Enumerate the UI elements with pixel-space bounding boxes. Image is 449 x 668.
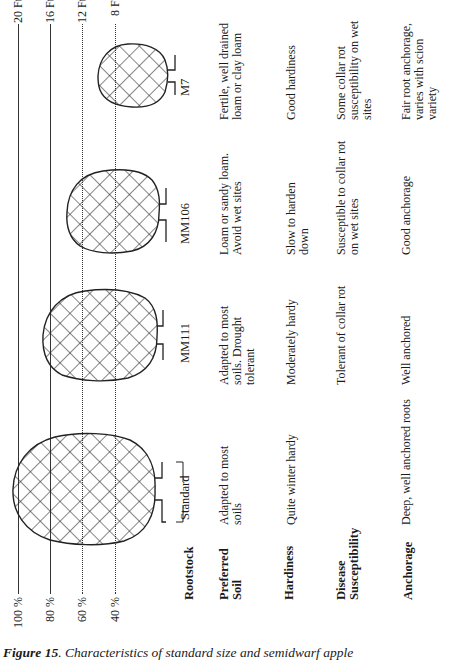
row-label-disease-susceptibility: Disease Susceptibility [335,528,361,600]
standard-preferred-soil: Adapted to most soils [218,433,244,525]
rootstock-name-mm106: MM106 [179,203,192,244]
mm106-disease-susceptibility: Susceptible to collar rot on wet sites [335,130,361,255]
tree-mm111-icon [43,290,163,381]
mm111-anchorage: Well anchored [400,265,413,385]
tree-standard-icon [13,433,183,544]
mm111-hardiness: Moderately hardy [285,255,298,385]
rootstock-name-m7: M7 [179,79,192,96]
mm111-preferred-soil: Adapted to most soils. Drought tolerant [218,290,257,385]
tree-m7-icon [98,44,175,107]
m7-disease-susceptibility: Some collar rot susceptibility on wet si… [335,5,374,120]
standard-hardiness: Quite winter hardy [285,390,298,525]
mm106-anchorage: Good anchorage [400,130,413,255]
rootstock-name-mm111: MM111 [179,323,192,363]
figure-caption: Figure 15. Characteristics of standard s… [3,645,449,660]
row-label-preferred-soil: Preferred Soil [218,548,244,600]
caption-text: . Characteristics of standard size and s… [58,645,353,660]
m7-preferred-soil: Fertile, well drained loam or clay loam [218,0,244,120]
rootstock-figure: 100 % 80 % 60 % 40 % 20 Ft. 16 Ft. 12 Ft… [0,0,449,640]
row-label-anchorage: Anchorage [402,542,415,600]
m7-hardiness: Good hardiness [285,0,298,120]
standard-anchorage: Deep, well anchored roots [400,397,413,525]
row-label-rootstock: Rootstock [183,547,196,600]
mm106-hardiness: Slow to harden down [285,155,311,255]
rootstock-name-standard: Standard [179,476,192,520]
row-label-hardiness: Hardiness [283,546,296,600]
figure-number: Figure 15 [3,645,58,660]
mm111-disease-susceptibility: Tolerant of collar rot [335,273,348,385]
tree-mm106-icon [67,170,166,253]
m7-anchorage: Fair root anchorage, varies with scion v… [400,8,439,120]
mm106-preferred-soil: Loam or sandy loam. Avoid wet sites [218,127,244,255]
